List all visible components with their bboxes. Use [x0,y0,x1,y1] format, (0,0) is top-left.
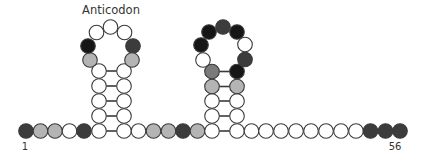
nucleotide [62,124,77,139]
stem-nucleotide [92,109,107,124]
nucleotides [19,20,408,139]
nucleotide [131,124,146,139]
loop-nucleotide [126,39,141,54]
loop-nucleotide [89,25,104,40]
nucleotide [48,124,63,139]
nucleotide [304,124,319,139]
nucleotide [230,124,245,139]
nucleotide [244,124,259,139]
loop-nucleotide [117,25,132,40]
nucleotide [319,124,334,139]
start-position-label: 1 [22,141,28,152]
nucleotide [378,124,393,139]
nucleotide [161,124,176,139]
stem-nucleotide [117,79,132,94]
nucleotide [77,124,92,139]
stem-nucleotide [230,94,245,109]
loop-nucleotide [81,39,96,54]
nucleotide [92,124,107,139]
stem-nucleotide [230,109,245,124]
loop-nucleotide [238,37,253,52]
nucleotide [19,124,34,139]
nucleotide [393,124,408,139]
stem-nucleotide [205,109,220,124]
stem-nucleotide [205,79,220,94]
loop-nucleotide [194,38,209,53]
loop-nucleotide [196,53,211,68]
stem-nucleotide [117,109,132,124]
nucleotide [334,124,349,139]
stem-nucleotide [92,79,107,94]
rna-structure-diagram: Anticodon 1 56 [0,0,422,156]
loop-nucleotide [202,25,217,40]
stem-nucleotide [117,94,132,109]
nucleotide [190,124,205,139]
nucleotide [259,124,274,139]
anticodon-label: Anticodon [82,3,140,17]
nucleotide [363,124,378,139]
loop-nucleotide [216,20,231,35]
stem-nucleotide [92,94,107,109]
loop-nucleotide [230,25,245,40]
loop-nucleotide [238,52,253,67]
nucleotide [33,124,48,139]
nucleotide [176,124,191,139]
nucleotide [289,124,304,139]
nucleotide [146,124,161,139]
stem-nucleotide [205,94,220,109]
stem-nucleotide [230,79,245,94]
nucleotide [117,124,132,139]
nucleotide [205,124,220,139]
loop-nucleotide [83,53,98,68]
nucleotide [349,124,364,139]
loop-nucleotide [125,53,140,68]
loop-nucleotide [103,20,118,35]
nucleotide [274,124,289,139]
end-position-label: 56 [389,141,402,152]
